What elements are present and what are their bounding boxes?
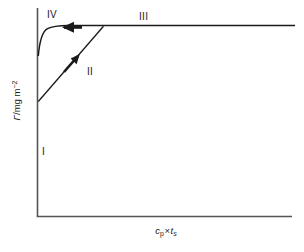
adsorption-isotherm-figure: IV III II I Γ/mg m−2 cp×ts (0, 0, 304, 252)
x-axis-title: cp×ts (118, 225, 214, 237)
growth-arrow-icon (64, 54, 80, 72)
region-label-i: I (42, 147, 45, 157)
region-label-iii: III (139, 12, 148, 22)
plateau-arrow-icon (62, 22, 82, 33)
region-label-iv: IV (47, 10, 57, 20)
x-axis-subscript-s: s (173, 230, 177, 237)
region-label-ii: II (87, 67, 93, 77)
saturation-curve (38, 26, 295, 57)
plot-area (0, 0, 304, 252)
y-axis-symbol: Γ (11, 115, 22, 120)
y-axis-unit: /mg m (11, 89, 22, 115)
y-axis-exponent: −2 (11, 81, 18, 89)
y-axis-title: Γ/mg m−2 (11, 61, 22, 141)
